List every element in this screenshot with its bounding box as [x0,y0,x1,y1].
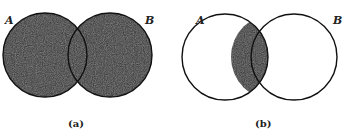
set-label-a: A [195,14,205,27]
set-label-b: B [144,14,154,27]
caption-b: (b) [255,118,271,129]
panel-a-union: A B (a) [3,13,154,129]
caption-a: (a) [68,118,84,129]
venn-figure: A B (a) A B (b) [0,0,350,138]
panel-b-intersection: A B (b) [182,14,342,129]
set-label-a: A [4,14,14,27]
set-label-b: B [332,14,342,27]
intersection-shaded [231,14,317,100]
